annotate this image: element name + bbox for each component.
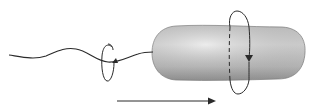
arrowhead-icon <box>208 98 216 105</box>
movement-direction-arrow <box>117 98 216 105</box>
cell-body <box>152 25 305 80</box>
arrowhead-icon <box>112 58 118 63</box>
bacterium-diagram: Bacterial flagellum rotation and swimmin… <box>0 0 315 112</box>
flagellum <box>9 49 153 63</box>
